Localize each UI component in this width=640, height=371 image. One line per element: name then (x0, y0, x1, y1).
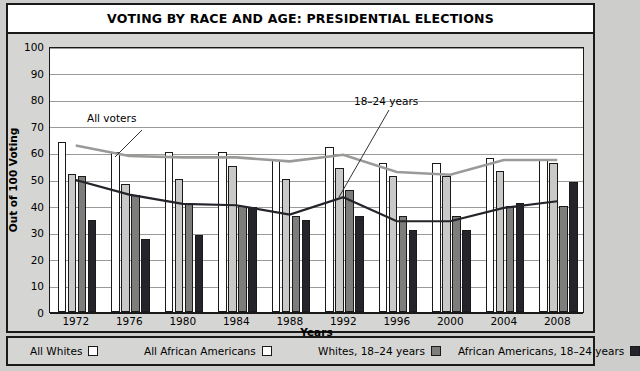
legend-item-label: African Americans, 18–24 years (458, 345, 624, 357)
y-axis-tick-label: 40 (31, 201, 44, 213)
line-18-24-years (76, 180, 558, 221)
legend-item-1[interactable]: All African Americans (144, 345, 272, 357)
chart-card: VOTING BY RACE AND AGE: PRESIDENTIAL ELE… (6, 3, 595, 333)
legend-item-0[interactable]: All Whites (30, 345, 98, 357)
leader-line-18-24-years (339, 110, 389, 197)
y-axis-tick-label: 100 (24, 41, 44, 53)
y-axis-tick-label: 20 (31, 254, 44, 266)
plot-area: All voters 18–24 years (49, 47, 584, 313)
legend-item-label: All African Americans (144, 345, 256, 357)
page-title: VOTING BY RACE AND AGE: PRESIDENTIAL ELE… (107, 11, 494, 26)
legend-item-label: All Whites (30, 345, 82, 357)
white-square-swatch (262, 346, 272, 356)
y-axis-tick-label: 50 (31, 174, 44, 186)
y-axis-tick-label: 80 (31, 94, 44, 106)
y-axis: 0102030405060708090100 (8, 47, 49, 313)
annotation-all-voters: All voters (87, 112, 136, 124)
y-axis-tick-label: 60 (31, 147, 44, 159)
legend-item-2[interactable]: Whites, 18–24 years (318, 345, 441, 357)
annotation-18-24-years: 18–24 years (354, 95, 418, 107)
y-axis-tick-label: 30 (31, 227, 44, 239)
legend-item-3[interactable]: African Americans, 18–24 years (458, 345, 640, 357)
legend-item-label: Whites, 18–24 years (318, 345, 425, 357)
series-line-overlay (49, 47, 584, 313)
gray-square-swatch (431, 346, 441, 356)
y-axis-tick-label: 70 (31, 121, 44, 133)
white-square-swatch (88, 346, 98, 356)
line-all-voters (76, 145, 558, 174)
y-axis-tick-label: 10 (31, 280, 44, 292)
dark-square-swatch (630, 346, 640, 356)
chart-title-bar: VOTING BY RACE AND AGE: PRESIDENTIAL ELE… (8, 5, 593, 34)
chart-legend: All WhitesAll African AmericansWhites, 1… (6, 336, 595, 366)
y-axis-tick-label: 0 (37, 307, 44, 319)
leader-line-all-voters (115, 130, 142, 157)
y-axis-tick-label: 90 (31, 68, 44, 80)
